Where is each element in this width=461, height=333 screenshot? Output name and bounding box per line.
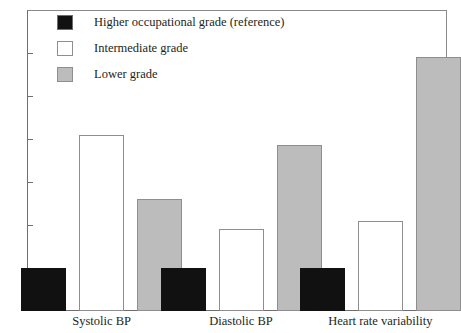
bar [300,268,345,311]
legend-item-label: Intermediate grade [94,42,188,55]
bar [219,229,264,311]
legend-item-label: Lower grade [94,68,158,81]
white-square-icon [57,41,73,56]
legend-item: Lower grade [57,63,387,85]
x-tick-label: Systolic BP [72,313,131,331]
legend-item: Higher occupational grade (reference) [57,11,387,33]
x-axis: Systolic BPDiastolic BPHeart rate variab… [28,313,446,333]
legend-item-label: Higher occupational grade (reference) [94,16,285,29]
legend-item: Intermediate grade [57,37,387,59]
x-tick-label: Heart rate variability [328,313,432,331]
bar [416,57,461,311]
chart-legend: Higher occupational grade (reference) In… [57,11,387,89]
bar [161,268,206,311]
x-tick-label: Diastolic BP [209,313,273,331]
bar [79,135,124,311]
black-square-icon [57,15,73,30]
bar [358,221,403,311]
bar [21,268,66,311]
gray-square-icon [57,67,73,82]
